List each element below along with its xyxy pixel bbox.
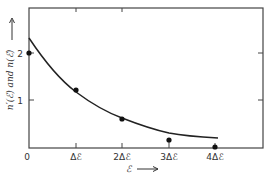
data-point bbox=[26, 50, 31, 55]
x-tick-label-0: 0 bbox=[24, 152, 30, 162]
data-point bbox=[73, 87, 78, 92]
data-point bbox=[119, 116, 124, 121]
x-tick-label-3: 3Δℰ bbox=[160, 152, 178, 162]
continuous-curve bbox=[29, 38, 218, 138]
y-tick-label-2: 2 bbox=[17, 49, 23, 59]
y-axis-label: n′(ℰ) and n(ℰ) bbox=[5, 49, 15, 110]
x-tick-label-1: Δℰ bbox=[70, 152, 82, 162]
chart: 2 1 0 Δℰ 2Δℰ 3Δℰ 4Δℰ ℰ n′(ℰ) and n(ℰ) bbox=[0, 0, 270, 178]
data-point bbox=[166, 137, 171, 142]
y-tick-label-1: 1 bbox=[17, 96, 23, 106]
x-tick-label-2: 2Δℰ bbox=[113, 152, 131, 162]
data-point bbox=[212, 144, 217, 149]
x-axis-label: ℰ bbox=[126, 164, 133, 174]
x-tick-label-4: 4Δℰ bbox=[206, 152, 224, 162]
